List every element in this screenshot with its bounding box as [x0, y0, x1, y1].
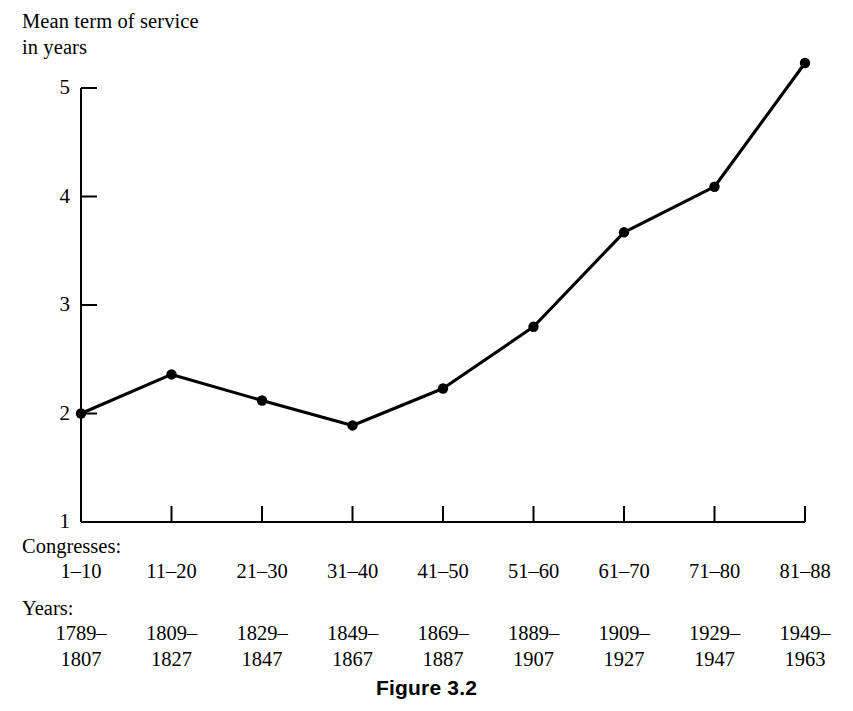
- years-range-start: 1909–: [598, 622, 649, 644]
- y-axis-ticks: [81, 88, 97, 414]
- y-axis-tick-label: 1: [36, 511, 70, 532]
- y-axis-tick-label: 5: [36, 77, 70, 98]
- years-range-start: 1949–: [779, 622, 830, 644]
- data-point: [528, 322, 538, 332]
- data-point: [166, 369, 176, 379]
- figure-container: Mean term of service in years 12345 Cong…: [0, 0, 853, 711]
- years-range-start: 1889–: [508, 622, 559, 644]
- years-range-label: 1949–1963: [750, 620, 853, 672]
- data-point-markers: [76, 58, 810, 431]
- data-point: [800, 58, 810, 68]
- data-point: [619, 227, 629, 237]
- line-chart-plot: [0, 0, 853, 711]
- y-axis-tick-label: 3: [36, 294, 70, 315]
- y-axis-tick-label: 2: [36, 403, 70, 424]
- x-axis-ticks: [81, 506, 805, 522]
- data-point: [257, 395, 267, 405]
- years-row-heading: Years:: [22, 597, 73, 619]
- figure-caption: Figure 3.2: [0, 676, 853, 700]
- years-range-start: 1829–: [236, 622, 287, 644]
- axis-lines: [81, 88, 805, 522]
- years-range-end: 1963: [750, 646, 853, 672]
- data-point: [438, 383, 448, 393]
- data-point: [76, 408, 86, 418]
- congress-range-label: 81–88: [750, 558, 853, 584]
- years-range-start: 1809–: [146, 622, 197, 644]
- years-range-start: 1869–: [417, 622, 468, 644]
- data-series-line: [81, 63, 805, 425]
- congresses-row-heading: Congresses:: [22, 535, 121, 557]
- years-range-start: 1789–: [55, 622, 106, 644]
- data-point: [709, 182, 719, 192]
- years-range-start: 1929–: [689, 622, 740, 644]
- data-point: [347, 420, 357, 430]
- years-range-start: 1849–: [327, 622, 378, 644]
- y-axis-tick-label: 4: [36, 186, 70, 207]
